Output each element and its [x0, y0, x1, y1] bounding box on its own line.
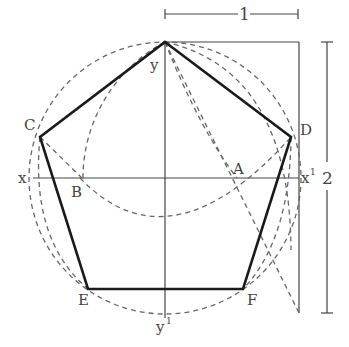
- dimension-width-label: 1: [239, 4, 250, 24]
- label-F: F: [247, 291, 257, 309]
- label-y-prime: y 1: [155, 316, 172, 336]
- arc-top-to-lower-right: [165, 42, 291, 250]
- dimension-width: 1: [165, 4, 298, 24]
- label-B: B: [71, 183, 82, 201]
- label-D: D: [300, 121, 312, 139]
- svg-text:1: 1: [166, 316, 172, 326]
- label-C: C: [24, 116, 35, 134]
- svg-text:y: y: [155, 318, 165, 336]
- label-A: A: [232, 160, 244, 178]
- label-x-prime: x 1: [301, 167, 316, 187]
- label-E: E: [78, 291, 89, 309]
- svg-text:1: 1: [310, 167, 316, 177]
- label-x: x: [18, 169, 27, 187]
- pentagon-construction-diagram: 1 2 y y 1 x x 1 A B C: [0, 0, 349, 347]
- label-y: y: [149, 56, 159, 74]
- dimension-height: 2: [321, 42, 333, 313]
- svg-text:x: x: [301, 169, 310, 187]
- dashed-top-to-A: [165, 42, 237, 178]
- dimension-height-label: 2: [322, 168, 333, 188]
- arc-B-to-D: [80, 137, 291, 217]
